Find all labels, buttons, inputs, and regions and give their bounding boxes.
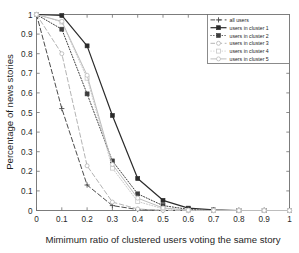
data-point-marker: [60, 27, 64, 31]
data-point-marker: [136, 207, 140, 211]
legend-label: users in cluster 3: [230, 40, 269, 46]
data-point-marker: [212, 209, 216, 213]
x-tick-label: 0: [34, 215, 39, 224]
data-point-marker: [217, 34, 221, 38]
data-point-marker: [161, 198, 165, 202]
legend-item-4[interactable]: users in cluster 3: [211, 40, 269, 46]
x-tick-label: 0.4: [132, 215, 144, 224]
data-point-marker: [136, 177, 140, 181]
data-point-marker: [110, 162, 114, 166]
y-tick-label: 0.8: [21, 50, 33, 59]
x-tick-label: 0.6: [183, 215, 195, 224]
legend-label: all users: [230, 17, 250, 23]
y-tick-label: 0: [28, 207, 33, 216]
legend-item-2[interactable]: users in cluster 1: [211, 25, 269, 31]
x-tick-label: 0.9: [259, 215, 271, 224]
x-tick-label: 0.7: [208, 215, 220, 224]
data-point-marker: [35, 13, 39, 17]
chart-figure: 00.10.20.30.40.50.60.70.80.91 00.10.20.3…: [0, 0, 299, 253]
y-axis-title: Percentage of news stories: [4, 54, 15, 170]
data-point-marker: [217, 49, 221, 53]
data-point-marker: [110, 200, 114, 204]
data-point-marker: [85, 92, 89, 96]
y-tick-label: 0.3: [21, 148, 33, 157]
y-axis-tick-labels: 00.10.20.30.40.50.60.70.80.91: [21, 11, 33, 216]
data-point-marker: [262, 209, 266, 213]
y-tick-label: 0.5: [21, 109, 33, 118]
x-tick-label: 0.5: [157, 215, 169, 224]
data-point-marker: [60, 19, 64, 23]
legend-item-6[interactable]: users in cluster 5: [211, 56, 269, 62]
x-tick-label: 0.3: [107, 215, 119, 224]
chart-legend[interactable]: all usersusers in cluster 1users in clus…: [208, 15, 290, 64]
data-point-marker: [85, 164, 89, 168]
data-point-marker: [136, 192, 140, 196]
data-point-marker: [186, 208, 190, 212]
data-point-marker: [85, 44, 89, 48]
legend-label: users in cluster 1: [230, 25, 269, 31]
y-tick-label: 0.9: [21, 30, 33, 39]
legend-label: users in cluster 4: [230, 48, 269, 54]
data-point-marker: [217, 41, 221, 45]
data-point-marker: [59, 106, 64, 111]
y-tick-label: 0.1: [21, 187, 33, 196]
legend-item-3[interactable]: users in cluster 2: [211, 33, 269, 39]
x-tick-label: 0.2: [81, 215, 93, 224]
data-point-marker: [60, 13, 64, 17]
x-axis-tick-labels: 00.10.20.30.40.50.60.70.80.91: [34, 215, 292, 224]
data-point-marker: [60, 52, 64, 56]
data-point-marker: [217, 57, 221, 61]
data-point-marker: [110, 113, 114, 117]
data-point-marker: [161, 206, 165, 210]
data-point-marker: [237, 209, 241, 213]
y-tick-label: 0.6: [21, 89, 33, 98]
x-tick-label: 1: [287, 215, 292, 224]
chart-canvas: 00.10.20.30.40.50.60.70.80.91 00.10.20.3…: [0, 0, 299, 253]
data-point-marker: [136, 196, 140, 200]
y-tick-label: 0.4: [21, 128, 33, 137]
data-point-marker: [217, 26, 221, 30]
data-point-marker: [288, 209, 292, 213]
legend-label: users in cluster 5: [230, 56, 269, 62]
y-tick-label: 0.7: [21, 69, 33, 78]
x-tick-label: 0.1: [56, 215, 68, 224]
x-axis-title: Mimimum ratio of clustered users voting …: [45, 234, 280, 245]
y-tick-label: 1: [28, 11, 33, 20]
data-point-marker: [85, 73, 89, 77]
x-tick-label: 0.8: [233, 215, 245, 224]
legend-item-5[interactable]: users in cluster 4: [211, 48, 269, 54]
legend-label: users in cluster 2: [230, 33, 269, 39]
y-tick-label: 0.2: [21, 167, 33, 176]
